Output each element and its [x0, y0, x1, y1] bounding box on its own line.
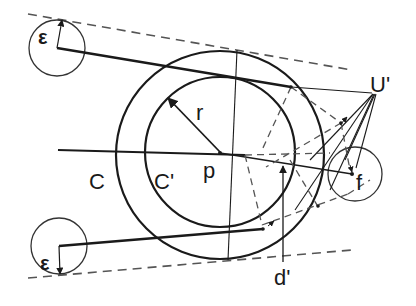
epsilon-top-arrow	[57, 20, 62, 48]
dashed-construction	[245, 87, 370, 225]
label-C-prime: C'	[154, 169, 174, 194]
label-C: C	[89, 169, 105, 194]
epsilon-bottom-arrow	[59, 246, 60, 274]
horizontal-axis-through-p	[58, 150, 245, 155]
lower-thick-segment	[59, 229, 263, 246]
radius-r-arrow	[168, 98, 220, 152]
label-d-prime: d'	[274, 265, 290, 290]
point-dashed-junction	[339, 121, 343, 125]
label-epsilon-bottom: ε	[40, 252, 50, 274]
point-p	[218, 151, 222, 155]
label-epsilon-top: ε	[38, 26, 48, 48]
point-lower-end	[261, 227, 265, 231]
label-r: r	[196, 100, 203, 125]
label-p: p	[203, 158, 215, 183]
label-U-prime: U'	[370, 72, 390, 97]
upper-dashed-tangent	[28, 14, 352, 70]
p-to-f-line	[220, 153, 352, 174]
f-circle	[328, 147, 382, 201]
label-f: f	[356, 170, 363, 195]
point-upper-end	[289, 85, 293, 89]
diagram-canvas: ε ε r p C C' U' f d'	[0, 0, 416, 306]
point-dashed-junction-2	[316, 204, 320, 208]
small-arrow-2	[268, 221, 274, 226]
point-f	[350, 172, 354, 176]
small-arrow-3	[350, 165, 352, 172]
